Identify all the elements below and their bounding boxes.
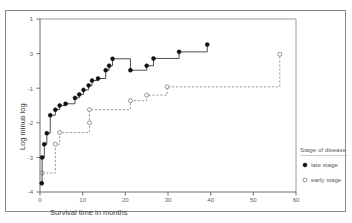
data-point-early-stage bbox=[145, 93, 149, 97]
y-tick-label: -3 bbox=[28, 155, 34, 161]
data-point-early-stage bbox=[128, 99, 132, 103]
legend-item-label-early-stage: early stage bbox=[311, 176, 342, 183]
x-tick-label: 40 bbox=[207, 197, 214, 203]
data-point-late-stage bbox=[48, 113, 52, 117]
data-point-late-stage bbox=[107, 64, 111, 68]
plot-frame-top-right bbox=[40, 19, 296, 192]
x-tick-label: 20 bbox=[122, 197, 129, 203]
x-axis-title: Survival time in months bbox=[50, 208, 128, 217]
y-axis-title: Log minus log bbox=[18, 103, 27, 150]
data-point-late-stage bbox=[73, 96, 77, 100]
data-point-late-stage bbox=[90, 79, 94, 83]
x-tick-label: 0 bbox=[38, 197, 42, 203]
series-late-stage bbox=[40, 43, 210, 186]
y-axis-ticks bbox=[37, 19, 41, 192]
y-tick-label: 1 bbox=[30, 16, 34, 22]
legend-marker-open-circle-icon bbox=[303, 178, 307, 182]
y-axis-tick-labels: 1 0 -1 -2 -3 -4 bbox=[28, 16, 34, 195]
data-point-early-stage bbox=[53, 142, 57, 146]
data-point-early-stage bbox=[165, 85, 169, 89]
x-axis-tick-labels: 0 10 20 30 40 50 60 bbox=[38, 197, 300, 203]
chart-plot: 1 0 -1 -2 -3 -4 0 10 20 30 40 50 60 bbox=[0, 0, 352, 223]
figure-container: 1 0 -1 -2 -3 -4 0 10 20 30 40 50 60 bbox=[0, 0, 352, 223]
data-point-late-stage bbox=[96, 77, 100, 81]
data-point-late-stage bbox=[151, 56, 155, 60]
data-point-late-stage bbox=[128, 68, 132, 72]
data-point-late-stage bbox=[145, 64, 149, 68]
x-tick-label: 50 bbox=[250, 197, 257, 203]
data-point-late-stage bbox=[111, 57, 115, 61]
y-tick-label: -1 bbox=[28, 86, 34, 92]
legend-item-label-late-stage: late stage bbox=[311, 161, 338, 168]
y-tick-label: -2 bbox=[28, 120, 34, 126]
legend: Stage of disease late stage early stage bbox=[300, 146, 348, 183]
data-point-late-stage bbox=[40, 155, 44, 159]
data-point-late-stage bbox=[205, 43, 209, 47]
data-point-late-stage bbox=[45, 131, 49, 135]
series-early-stage bbox=[40, 52, 282, 175]
x-tick-label: 30 bbox=[165, 197, 172, 203]
data-point-early-stage bbox=[87, 108, 91, 112]
x-tick-label: 10 bbox=[79, 197, 86, 203]
data-point-early-stage bbox=[87, 121, 91, 125]
legend-marker-filled-circle-icon bbox=[303, 163, 307, 167]
series-line-late-stage bbox=[42, 45, 208, 184]
data-point-late-stage bbox=[87, 83, 91, 87]
data-point-late-stage bbox=[82, 88, 86, 92]
data-point-late-stage bbox=[58, 104, 62, 108]
data-point-late-stage bbox=[77, 92, 81, 96]
data-point-late-stage bbox=[53, 108, 57, 112]
x-tick-label: 60 bbox=[293, 197, 300, 203]
data-point-early-stage bbox=[58, 130, 62, 134]
data-point-late-stage bbox=[177, 50, 181, 54]
data-point-late-stage bbox=[104, 68, 108, 72]
data-point-late-stage bbox=[40, 181, 44, 185]
data-point-late-stage bbox=[42, 142, 46, 146]
data-point-late-stage bbox=[64, 102, 68, 106]
x-axis-ticks bbox=[40, 192, 296, 196]
y-tick-label: -4 bbox=[28, 189, 34, 195]
series-line-early-stage bbox=[42, 54, 280, 173]
data-point-early-stage bbox=[278, 52, 282, 56]
y-tick-label: 0 bbox=[30, 51, 34, 57]
legend-title: Stage of disease bbox=[300, 146, 347, 153]
